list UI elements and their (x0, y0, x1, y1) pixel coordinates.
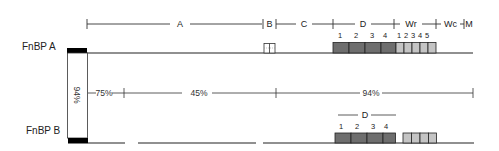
fnbpa-d-repeat-number: 2 (354, 31, 358, 40)
region-label-d: D (360, 19, 367, 29)
fnbpb-d-label: D (362, 110, 369, 120)
fnbpa-d-repeat-number: 1 (338, 31, 342, 40)
fnbpa-d-repeat-box (365, 43, 381, 54)
fnbpb-d-repeat-number: 3 (371, 122, 375, 131)
identity-label-75: 75% (95, 88, 112, 98)
signal-identity-label: 94% (72, 86, 82, 103)
fnbpa-wr-repeat-box (404, 43, 412, 54)
protein-label-fnbpb: FnBP B (26, 125, 61, 136)
fnbpb-wr-repeat-box (403, 133, 412, 143)
fnbpa-d-repeats (333, 43, 396, 54)
fnbpa-d-repeat-box (333, 43, 349, 54)
fnbpa-wr-repeats (396, 43, 436, 54)
fnbpa-d-repeat-box (381, 43, 396, 54)
fnbpa-d-repeat-number: 3 (370, 31, 374, 40)
fnbpb-d-repeat-box (367, 133, 383, 143)
fnbpa-wr-repeat-number: 5 (425, 31, 429, 40)
fnbpb-d-repeat-number: 1 (339, 122, 343, 131)
fnbpb-d-repeat-box (383, 133, 396, 143)
fnbpb-wr-repeat-box (420, 133, 429, 143)
region-label-a: A (177, 19, 183, 29)
fnbpb-wr-repeat-box (429, 133, 437, 143)
fnbpa-b-repeat-box (264, 44, 275, 54)
fnbpb-wr-repeat-box (412, 133, 421, 143)
identity-label-45: 45% (190, 88, 207, 98)
fnbpb-d-repeat-box (335, 133, 351, 143)
fnbpa-wr-repeat-number: 2 (404, 31, 408, 40)
fnbpa-wr-repeat-box (420, 43, 428, 54)
identity-label-94: 94% (362, 88, 379, 98)
region-label-m: M (465, 19, 473, 29)
fnbpa-d-repeat-box (349, 43, 365, 54)
fnbpa-wr-repeat-box (396, 43, 404, 54)
protein-label-fnbpa: FnBP A (22, 41, 56, 52)
fnbpb-d-repeat-box (351, 133, 367, 143)
fnbp-diagram: A B C D Wr Wc M FnBP A 1 2 3 4 1 2 3 4 5… (0, 0, 499, 151)
fnbpb-signal-peptide (68, 138, 88, 144)
fnbpa-wr-repeat-number: 1 (397, 31, 401, 40)
region-label-b: B (266, 19, 272, 29)
region-label-c: C (301, 19, 308, 29)
fnbpb-d-repeats (335, 133, 396, 143)
fnbpb-wr-repeats (403, 133, 437, 143)
fnbpa-wr-repeat-number: 4 (418, 31, 422, 40)
fnbpa-wr-repeat-box (428, 43, 436, 54)
fnbpb-d-repeat-number: 4 (384, 122, 388, 131)
fnbpb-d-repeat-number: 2 (355, 122, 359, 131)
fnbpa-d-repeat-number: 4 (383, 31, 387, 40)
region-label-wc: Wc (444, 19, 457, 29)
fnbpa-wr-repeat-number: 3 (411, 31, 415, 40)
region-label-wr: Wr (405, 19, 416, 29)
identity-ruler (88, 88, 473, 98)
fnbpa-wr-repeat-box (412, 43, 420, 54)
